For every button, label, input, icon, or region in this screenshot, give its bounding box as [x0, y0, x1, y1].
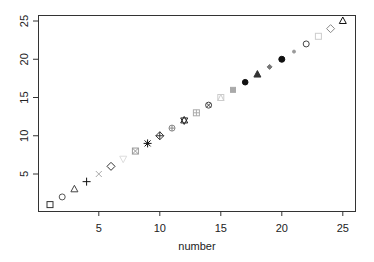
data-point-open-triangle: [71, 185, 78, 192]
data-point-filled-circle-large: [279, 56, 285, 62]
data-point-filled-triangle: [254, 71, 261, 78]
data-point-star-of-david: [181, 116, 188, 124]
data-point-open-diamond: [107, 162, 115, 170]
data-point-diamond-plus: [156, 132, 164, 140]
data-point-open-down-triangle: [120, 156, 127, 163]
data-point-square-triangle: [218, 95, 224, 101]
x-tick-label: 25: [337, 222, 349, 234]
data-point-circle-plus: [169, 125, 175, 131]
y-tick-label: 15: [18, 91, 30, 103]
data-point-open-circle: [59, 194, 65, 200]
x-tick-label: 20: [276, 222, 288, 234]
data-point-small-dot: [293, 50, 296, 53]
data-point-open-triangle: [339, 17, 346, 24]
y-tick-label: 5: [18, 171, 30, 177]
x-tick-label: 5: [96, 222, 102, 234]
data-point-cross: [96, 171, 102, 177]
data-point-circle-cross: [206, 102, 212, 108]
data-point-square-cross: [132, 148, 138, 154]
data-point-open-diamond: [327, 25, 335, 33]
data-point-filled-square: [231, 87, 236, 92]
data-point-filled-diamond: [267, 64, 272, 69]
x-axis: 510152025: [96, 212, 349, 235]
x-axis-label: number: [178, 240, 216, 252]
data-point-filled-circle: [242, 79, 248, 85]
x-tick-label: 15: [215, 222, 227, 234]
y-tick-label: 25: [18, 15, 30, 27]
y-axis: 510152025: [18, 15, 39, 177]
x-tick-label: 10: [154, 222, 166, 234]
data-point-open-square: [47, 202, 53, 208]
data-point-open-square: [315, 33, 321, 39]
scatter-plot: 510152025 510152025 number: [0, 0, 374, 262]
y-tick-label: 20: [18, 53, 30, 65]
data-point-plus: [83, 178, 91, 186]
data-points: [47, 17, 346, 208]
data-point-open-circle: [303, 41, 309, 47]
data-point-asterisk: [144, 139, 152, 147]
y-tick-label: 10: [18, 130, 30, 142]
data-point-square-plus: [193, 110, 199, 116]
